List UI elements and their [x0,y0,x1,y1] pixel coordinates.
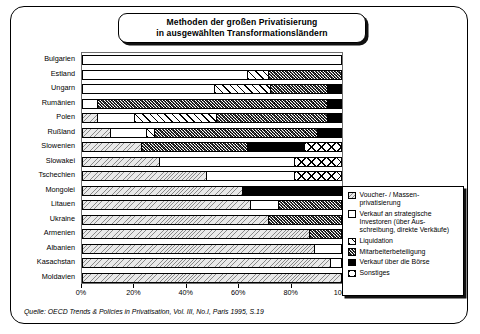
legend-item-employee: Mitarbeiterbeteiligung [348,248,459,256]
legend-item-boerse: Verkauf über die Börse [348,258,459,266]
bar-segment-sonstiges [295,172,341,180]
axis-tick-label: 20% [126,288,140,297]
bar-segment-employee [217,114,328,122]
bar-segment-boerse [318,129,341,137]
stacked-bar-albanien [82,244,342,254]
bar-row [82,84,342,94]
value-axis-ticks: 0%20%40%60%80%100% [81,284,343,300]
bar-segment-voucher [83,187,243,195]
axis-tick [133,284,134,288]
bar-segment-voucher [83,114,98,122]
bar-segment-boerse [328,85,341,93]
category-label-slowakei: Slowakei [18,157,75,165]
bar-row [82,142,342,152]
bar-segment-sonstiges [295,158,341,166]
bar-row [82,99,342,109]
bar-segment-employee [269,216,341,224]
legend-item-strategic: Verkauf an strategischeInvestoren (über … [348,210,459,235]
legend-swatch-strategic [348,210,356,218]
axis-tick [81,284,82,288]
bar-segment-strategic [111,129,147,137]
bar-segment-voucher [83,172,207,180]
bar-segment-strategic [83,56,341,64]
bar-row [82,215,342,225]
chart-title-box: Methoden der großen Privatisierung in au… [118,13,366,43]
bar-segment-employee [98,100,328,108]
stacked-bar-kasachstan [82,258,342,268]
bar-row [82,171,342,181]
legend-label-boerse: Verkauf über die Börse [360,258,430,266]
legend-item-sonstiges: Sonstiges [348,269,459,277]
bar-row [82,55,342,65]
stacked-bar-slowenien [82,142,342,152]
bar-segment-boerse [248,143,305,151]
bar-row [82,244,342,254]
page-title-line-1: Methoden der großen Privatisierung [167,17,318,28]
bar-segment-voucher [83,201,251,209]
legend-swatch-employee [348,248,356,256]
legend-label-strategic: Verkauf an strategischeInvestoren (über … [360,210,450,235]
category-label-armenien: Armenien [18,229,75,237]
bar-segment-employee [271,85,328,93]
page-title-line-2: in ausgewählten Transformationsländern [156,28,327,39]
stacked-bar-bulgarien [82,55,342,65]
bars-container [81,52,343,284]
stacked-bar-ungarn [82,84,342,94]
bar-row [82,273,342,283]
category-label-litauen: Litauen [18,200,75,208]
bar-segment-voucher [83,216,269,224]
source-citation: Quelle: OECD Trends & Policies in Privat… [24,308,264,315]
bar-segment-voucher [83,230,310,238]
bar-segment-employee [142,143,248,151]
bar-row [82,157,342,167]
stacked-bar-litauen [82,200,342,210]
stacked-bar-polen [82,113,342,123]
bar-segment-voucher [83,158,160,166]
bar-row [82,70,342,80]
bar-segment-liquidation [215,85,272,93]
stacked-bar-tschechien [82,171,342,181]
category-label-albanien: Albanien [18,244,75,252]
legend-label-employee: Mitarbeiterbeteiligung [360,248,426,256]
legend-swatch-sonstiges [348,270,356,278]
legend-swatch-boerse [348,259,356,267]
stacked-bar-ruland [82,128,342,138]
bar-row [82,200,342,210]
bar-segment-boerse [243,187,341,195]
stacked-bar-ukraine [82,215,342,225]
legend-item-liquidation: Liquidation [348,237,459,245]
category-label-bulgarien: Bulgarien [18,55,75,63]
bar-row [82,113,342,123]
axis-tick [291,284,292,288]
category-label-estland: Estland [18,70,75,78]
category-label-polen: Polen [18,113,75,121]
bar-segment-boerse [328,114,341,122]
bar-segment-voucher [83,245,315,253]
category-axis-labels: BulgarienEstlandUngarnRumänienPolenRußla… [22,52,79,284]
bar-segment-sonstiges [305,143,341,151]
chart-screenshot: Methoden der großen Privatisierung in au… [0,0,480,334]
axis-tick-label: 0% [76,288,86,297]
axis-tick-label: 60% [231,288,245,297]
legend-label-voucher: Voucher- / Massen-privatisierung [360,191,420,207]
legend-label-liquidation: Liquidation [360,237,393,245]
axis-tick [186,284,187,288]
category-label-mongolei: Mongolei [18,186,75,194]
category-label-kasachstan: Kasachstan [18,258,75,266]
legend-item-voucher: Voucher- / Massen-privatisierung [348,191,459,207]
bar-segment-strategic [315,245,341,253]
bar-segment-strategic [83,71,248,79]
bar-segment-strategic [160,158,294,166]
bar-segment-liquidation [147,129,155,137]
stacked-bar-slowakei [82,157,342,167]
bar-segment-voucher [83,259,331,267]
category-label-rumnien: Rumänien [18,99,75,107]
bar-row [82,186,342,196]
bar-segment-strategic [83,100,98,108]
category-label-slowenien: Slowenien [18,142,75,150]
axis-tick-label: 40% [179,288,193,297]
bar-segment-boerse [328,100,341,108]
bar-row [82,128,342,138]
category-label-ruland: Rußland [18,128,75,136]
bar-segment-voucher [83,129,111,137]
